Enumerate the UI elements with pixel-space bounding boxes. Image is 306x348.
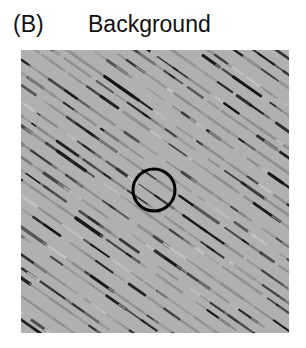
panel-caption: (B) Background [0, 9, 306, 43]
panel-letter-label: (B) [13, 9, 44, 39]
stimulus-image [21, 50, 289, 333]
figure-panel-b: (B) Background [0, 0, 306, 348]
oriented-line-texture-icon [21, 50, 289, 333]
page-title: Background [88, 9, 211, 39]
